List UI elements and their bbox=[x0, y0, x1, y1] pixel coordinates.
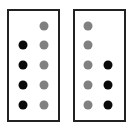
gray-dot bbox=[40, 81, 49, 90]
gray-dot bbox=[40, 22, 49, 31]
black-dot bbox=[104, 81, 113, 90]
gray-dot bbox=[84, 41, 93, 50]
black-dot bbox=[104, 61, 113, 70]
black-dot bbox=[19, 61, 28, 70]
gray-dot bbox=[40, 41, 49, 50]
gray-dot bbox=[40, 101, 49, 110]
left-panel bbox=[7, 9, 60, 122]
gray-dot bbox=[84, 101, 93, 110]
black-dot bbox=[104, 101, 113, 110]
right-panel bbox=[73, 9, 126, 122]
gray-dot bbox=[84, 81, 93, 90]
black-dot bbox=[19, 81, 28, 90]
black-dot bbox=[19, 101, 28, 110]
gray-dot bbox=[84, 22, 93, 31]
gray-dot bbox=[40, 61, 49, 70]
black-dot bbox=[19, 41, 28, 50]
gray-dot bbox=[84, 61, 93, 70]
